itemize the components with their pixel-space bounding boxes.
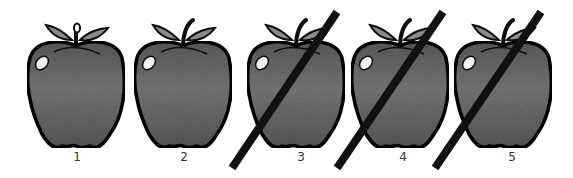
apple-label-2: 2 — [180, 150, 188, 164]
left-leaf-icon — [46, 25, 72, 40]
left-leaf-icon — [473, 25, 499, 40]
right-leaf-icon — [187, 28, 215, 40]
apple-figure: 12345 — [0, 0, 573, 178]
right-leaf-icon — [80, 28, 108, 40]
left-leaf-icon — [266, 25, 292, 40]
apple-label-5: 5 — [508, 150, 516, 164]
apple-5 — [455, 20, 552, 148]
apple-label-1: 1 — [73, 150, 81, 164]
left-leaf-icon — [153, 25, 179, 40]
apple-label-4: 4 — [399, 150, 407, 164]
stem-bud-icon — [74, 24, 80, 33]
apple-label-3: 3 — [297, 150, 305, 164]
apple-1 — [28, 24, 125, 148]
left-leaf-icon — [370, 25, 396, 40]
apple-2 — [135, 20, 232, 148]
